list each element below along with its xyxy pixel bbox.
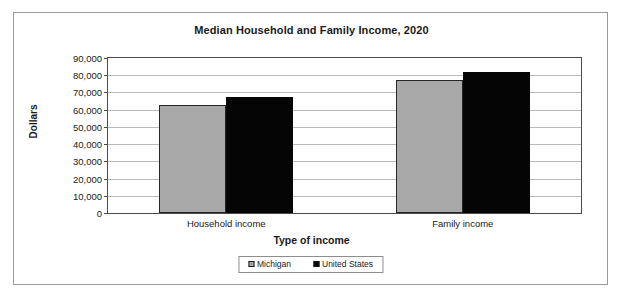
x-axis-title: Type of income — [14, 234, 609, 246]
plot-area: 010,00020,00030,00040,00050,00060,00070,… — [107, 57, 582, 214]
y-axis-tick-label: 20,000 — [73, 173, 102, 184]
y-axis-tick-mark — [104, 92, 108, 93]
y-axis-tick-mark — [104, 179, 108, 180]
y-axis-tick-label: 70,000 — [73, 87, 102, 98]
y-axis-tick-label: 30,000 — [73, 156, 102, 167]
bar-united-states-family-income — [463, 72, 530, 213]
bar-michigan-family-income — [396, 80, 463, 213]
y-axis-tick-mark — [104, 161, 108, 162]
y-axis-tick-mark — [104, 144, 108, 145]
chart-title: Median Household and Family Income, 2020 — [14, 24, 609, 36]
y-axis-tick-label: 0 — [97, 208, 102, 219]
chart-legend: MichiganUnited States — [238, 256, 383, 273]
legend-item-united-states: United States — [313, 259, 373, 269]
y-axis-tick-mark — [104, 196, 108, 197]
y-axis-tick-label: 80,000 — [73, 70, 102, 81]
legend-item-michigan: Michigan — [248, 259, 291, 269]
y-axis-tick-label: 40,000 — [73, 139, 102, 150]
legend-label: Michigan — [257, 259, 291, 269]
y-axis-tick-label: 10,000 — [73, 190, 102, 201]
legend-label: United States — [322, 259, 373, 269]
y-axis-tick-mark — [104, 213, 108, 214]
y-axis-tick-mark — [104, 75, 108, 76]
y-axis-tick-mark — [104, 127, 108, 128]
y-axis-tick-label: 90,000 — [73, 53, 102, 64]
legend-swatch-icon — [248, 261, 254, 267]
chart-figure: Median Household and Family Income, 2020… — [13, 12, 608, 285]
y-axis-tick-label: 50,000 — [73, 121, 102, 132]
y-axis-tick-mark — [104, 110, 108, 111]
y-axis-title: Dollars — [28, 77, 39, 167]
y-axis-tick-label: 60,000 — [73, 104, 102, 115]
bar-michigan-household-income — [159, 105, 226, 214]
legend-swatch-icon — [313, 261, 319, 267]
x-axis-category-label: Household income — [187, 218, 266, 229]
y-axis-tick-mark — [104, 58, 108, 59]
bar-united-states-household-income — [226, 97, 293, 213]
x-axis-category-label: Family income — [432, 218, 493, 229]
